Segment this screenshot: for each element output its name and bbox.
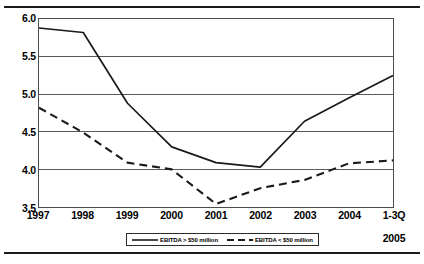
series-line-2 — [39, 108, 393, 204]
legend-entry-1[interactable]: EBITDA > $50 million — [132, 236, 218, 244]
x-tick-label: 1-3Q2005 — [383, 210, 406, 244]
x-tick-label-line1: 2002 — [249, 209, 272, 221]
series-line-1 — [39, 28, 393, 167]
x-tick-label: 2002 — [249, 210, 272, 221]
y-tick-label: 5.0 — [2, 89, 36, 100]
y-axis-tick-labels: 3.54.04.55.05.56.0 — [0, 18, 36, 208]
x-tick-label: 1999 — [116, 210, 139, 221]
x-tick-label-line1: 2003 — [294, 209, 317, 221]
x-tick-label-line2: 2005 — [383, 233, 406, 244]
y-tick-label: 6.0 — [2, 13, 36, 24]
x-tick-label: 2000 — [160, 210, 183, 221]
series-lines — [39, 19, 393, 207]
y-tick-label: 4.5 — [2, 127, 36, 138]
chart-figure: 3.54.04.55.05.56.0 199719981999200020012… — [0, 0, 424, 264]
x-tick-label: 1997 — [27, 210, 50, 221]
legend-label: EBITDA > $50 million — [160, 237, 218, 243]
top-divider-rule — [4, 6, 420, 8]
x-tick-label-line1: 1998 — [71, 209, 94, 221]
x-tick-label-line1: 1997 — [27, 209, 50, 221]
legend-entry-2[interactable]: EBITDA < $50 million — [227, 236, 313, 244]
solid-line-icon — [132, 236, 158, 244]
y-tick-label: 4.0 — [2, 165, 36, 176]
legend-label: EBITDA < $50 million — [255, 237, 313, 243]
plot-area — [38, 18, 394, 208]
chart-legend: EBITDA > $50 millionEBITDA < $50 million — [126, 233, 319, 246]
bottom-divider-rule — [4, 252, 420, 254]
x-tick-label: 2001 — [205, 210, 228, 221]
x-tick-label-line1: 1-3Q — [383, 209, 406, 221]
x-tick-label: 1998 — [71, 210, 94, 221]
y-tick-label: 5.5 — [2, 51, 36, 62]
x-tick-label-line1: 2000 — [160, 209, 183, 221]
x-tick-label: 2004 — [338, 210, 361, 221]
dashed-line-icon — [227, 236, 253, 244]
x-tick-label-line1: 1999 — [116, 209, 139, 221]
x-tick-label-line1: 2001 — [205, 209, 228, 221]
x-tick-label-line1: 2004 — [338, 209, 361, 221]
x-tick-label: 2003 — [294, 210, 317, 221]
